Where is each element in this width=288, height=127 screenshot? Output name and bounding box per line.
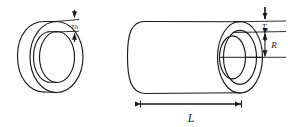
ts-lower-extension-line: [233, 32, 286, 33]
ts-label-subscript: s: [266, 26, 269, 32]
ts-dimension-label: Ts: [262, 23, 269, 33]
ring-front-inner-ellipse: [40, 32, 75, 83]
ring-back-inner-ellipse: [34, 32, 49, 82]
ring-bottom-tangent: [44, 92, 57, 93]
th-upper-extension-line: [55, 20, 79, 22]
cylinder-far-end-outer-arc: [128, 22, 146, 94]
l-dimension-label: L: [187, 111, 195, 125]
th-dimension-label: Th: [71, 23, 79, 31]
cylinder-bottom-edge: [145, 93, 240, 94]
engineering-diagram: Th: [0, 0, 288, 127]
right-cylinder-part: Ts R L: [128, 7, 287, 125]
r-dimension-label: R: [270, 40, 277, 50]
left-ring-part: Th: [18, 10, 84, 93]
diagram-canvas: Th: [0, 0, 288, 127]
